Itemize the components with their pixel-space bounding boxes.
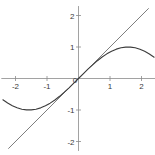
chart-background (0, 0, 155, 155)
chart-canvas: -2 -1 0 1 2 2 1 -1 -2 (0, 0, 155, 155)
x-tick-label-pos2: 2 (139, 82, 144, 91)
chart-container: -2 -1 0 1 2 2 1 -1 -2 (0, 0, 155, 155)
x-tick-label-pos1: 1 (108, 82, 113, 91)
x-tick-label-neg1: -1 (43, 82, 51, 91)
origin-label-zero: 0 (73, 76, 78, 85)
y-tick-label-pos1: 1 (70, 43, 75, 52)
x-tick-label-neg2: -2 (12, 82, 20, 91)
y-tick-label-pos2: 2 (70, 12, 75, 21)
y-tick-label-neg1: -1 (67, 106, 75, 115)
y-tick-label-neg2: -2 (67, 138, 75, 147)
